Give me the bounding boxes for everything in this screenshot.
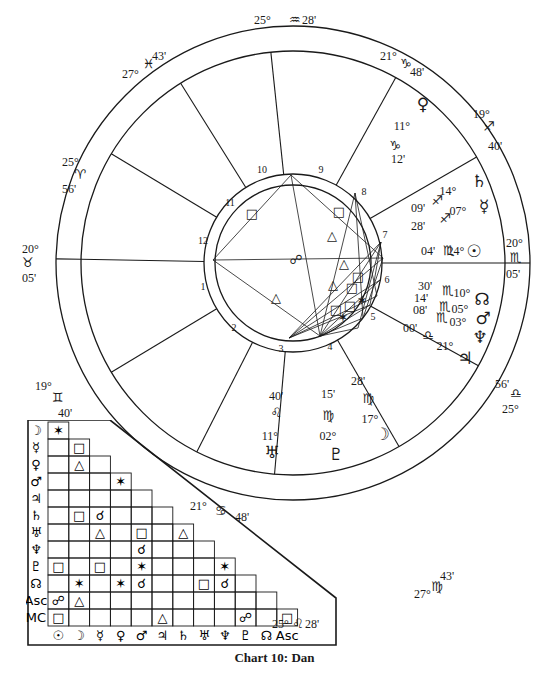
grid-row-label: ♇ xyxy=(30,559,42,574)
center-opposition-icon: ☍ xyxy=(289,252,302,267)
uranus-sign-icon: ♌ xyxy=(270,405,282,420)
grid-row-label: MC xyxy=(26,610,46,625)
aspect-symbol-icon: □ xyxy=(135,525,147,540)
mercury-icon: ☿ xyxy=(479,196,489,216)
uranus-minutes: 40' xyxy=(269,389,283,403)
grid-column-label: ♅ xyxy=(198,628,210,643)
grid-column-label: ♆ xyxy=(219,628,231,643)
chart-caption: Chart 10: Dan xyxy=(0,650,549,666)
house-number-7: 7 xyxy=(383,229,388,240)
house-number-3: 3 xyxy=(279,343,284,354)
aspect-symbol-icon: □ xyxy=(52,610,64,625)
grid-row-label: ♃ xyxy=(30,491,42,506)
grid-cell xyxy=(90,541,111,558)
cusp-8-sign-icon: ♐ xyxy=(483,119,495,134)
aspect-symbol-icon: ✶ xyxy=(115,474,126,489)
grid-cell xyxy=(90,575,111,592)
house-number-1: 1 xyxy=(201,281,206,292)
grid-cell xyxy=(69,558,90,575)
cusp-5-minutes: 43' xyxy=(440,569,454,583)
grid-cell xyxy=(48,524,69,541)
aspect-marker-icon: □ xyxy=(333,204,345,219)
grid-cell xyxy=(256,592,277,609)
grid-cell xyxy=(214,609,235,626)
aspect-symbol-icon: ☍ xyxy=(239,610,252,625)
jupiter-sign-icon: ♎ xyxy=(422,328,434,343)
mars-degree: 05° xyxy=(452,302,469,316)
mercury-minutes: 28' xyxy=(411,219,425,233)
grid-cell xyxy=(48,473,69,490)
grid-column-label: ☉ xyxy=(53,628,65,643)
aspect-symbol-icon: ✶ xyxy=(53,423,64,438)
grid-cell xyxy=(152,558,173,575)
grid-cell xyxy=(90,490,111,507)
aspect-symbol-icon: □ xyxy=(198,576,210,591)
aspect-symbol-icon: △ xyxy=(74,593,84,608)
grid-cell xyxy=(235,592,256,609)
grid-cell xyxy=(131,490,152,507)
house-number-5: 5 xyxy=(371,311,376,322)
aspect-symbol-icon: □ xyxy=(281,610,293,625)
cusp-6-minutes: 56' xyxy=(495,377,509,391)
grid-cell xyxy=(110,592,131,609)
aspect-symbol-icon: □ xyxy=(73,440,85,455)
grid-cell xyxy=(173,558,194,575)
grid-cell xyxy=(173,592,194,609)
neptune-icon: ♆ xyxy=(472,327,487,347)
grid-column-label: ♀ xyxy=(116,628,126,643)
aspect-symbol-icon: ☌ xyxy=(137,542,146,557)
venus-icon: ♀ xyxy=(417,94,429,114)
cusp-2-sign-icon: ♊ xyxy=(52,390,64,405)
jupiter-degree: 21° xyxy=(437,339,454,353)
grid-column-label: ☽ xyxy=(73,628,85,643)
grid-cell xyxy=(69,490,90,507)
cusp-6-sign-icon: ♎ xyxy=(510,386,522,401)
grid-cell xyxy=(152,524,173,541)
grid-row-label: ♅ xyxy=(30,525,42,540)
house-cusp-9 xyxy=(336,78,396,186)
north-node-sign-icon: ♏ xyxy=(442,283,454,298)
grid-cell xyxy=(131,507,152,524)
cusp-1-degree: 20° xyxy=(22,242,39,256)
grid-cell xyxy=(69,609,90,626)
grid-cell xyxy=(69,541,90,558)
neptune-degree: 03° xyxy=(450,315,467,329)
house-number-10: 10 xyxy=(257,164,267,175)
cusp-12-minutes: 56' xyxy=(62,182,76,196)
grid-cell xyxy=(48,490,69,507)
grid-cell xyxy=(131,592,152,609)
grid-cell xyxy=(152,575,173,592)
cusp-7-degree: 20° xyxy=(506,236,523,250)
aspect-symbol-icon: △ xyxy=(95,525,105,540)
pluto-minutes: 15' xyxy=(321,387,335,401)
aspect-marker-icon: △ xyxy=(328,277,338,292)
north-node-degree: 10° xyxy=(454,286,471,300)
aspect-symbol-icon: ✶ xyxy=(136,559,147,574)
grid-cell xyxy=(256,609,277,626)
saturn-sign-icon: ♐ xyxy=(431,193,443,208)
grid-column-label: ♄ xyxy=(177,628,189,643)
cusp-10-sign-icon: ♒ xyxy=(289,12,301,27)
house-number-4: 4 xyxy=(328,341,333,352)
cusp-2-degree: 19° xyxy=(35,379,52,393)
aspect-symbol-icon: ✶ xyxy=(219,559,230,574)
grid-cell xyxy=(194,592,215,609)
aspect-symbol-icon: ✶ xyxy=(74,576,85,591)
aspect-symbol-icon: ✶ xyxy=(115,576,126,591)
grid-cell xyxy=(90,592,111,609)
grid-cell xyxy=(131,609,152,626)
grid-cell xyxy=(110,507,131,524)
sun-sign-icon: ♏ xyxy=(443,243,455,258)
house-number-6: 6 xyxy=(385,274,390,285)
cusp-1-minutes: 05' xyxy=(22,271,36,285)
grid-column-label: ♇ xyxy=(240,628,252,643)
saturn-minutes: 09' xyxy=(411,201,425,215)
grid-cell xyxy=(48,575,69,592)
aspect-symbol-icon: □ xyxy=(94,559,106,574)
aspect-marker-icon: △ xyxy=(339,256,349,271)
grid-cell xyxy=(90,473,111,490)
sun-icon: ☉ xyxy=(466,241,481,261)
neptune-sign-icon: ♏ xyxy=(436,310,448,325)
grid-cell xyxy=(110,541,131,558)
grid-row-label: ☊ xyxy=(30,576,42,591)
